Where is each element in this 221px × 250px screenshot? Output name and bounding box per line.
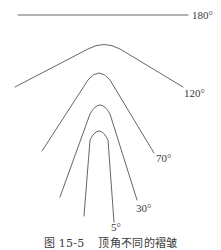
label-120: 120° [184,88,205,99]
label-70: 70° [156,153,171,164]
label-180: 180° [192,10,213,21]
fold-70-curve [42,73,154,153]
fold-120-curve [15,45,183,88]
label-5: 5° [111,222,121,233]
label-30: 30° [136,203,151,214]
caption-title: 顶角不同的褶皱 [98,237,177,250]
fold-5-curve [84,131,114,222]
figure-caption: 图 15-5 顶角不同的褶皱 [0,234,221,250]
fold-30-curve [60,105,137,200]
caption-number: 图 15-5 [44,237,85,250]
